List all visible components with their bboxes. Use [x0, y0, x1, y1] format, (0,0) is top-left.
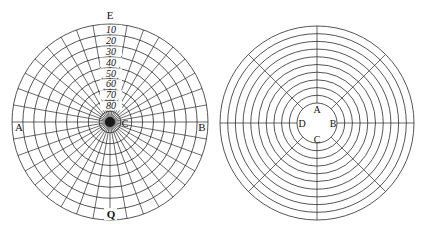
right-label-left: D	[298, 118, 305, 129]
diagram-stage: 1020304050607080 E A B Q C A B C D	[0, 0, 425, 235]
degree-label: 20	[106, 35, 116, 46]
right-radial-lines	[220, 26, 414, 220]
radial-line	[248, 137, 302, 191]
radial-line	[331, 137, 385, 191]
degree-label: 80	[106, 100, 116, 111]
degree-label: 30	[105, 46, 116, 57]
left-label-left: A	[15, 121, 23, 133]
right-label-top: A	[313, 104, 321, 115]
left-label-center: C	[122, 118, 129, 129]
left-label-bottom: Q	[107, 208, 116, 220]
left-label-top: E	[107, 9, 114, 21]
right-label-bottom: C	[314, 134, 321, 145]
degree-label: 10	[106, 24, 116, 35]
degree-label: 70	[106, 89, 116, 100]
left-label-right: B	[198, 121, 205, 133]
diagram-canvas: 1020304050607080 E A B Q C A B C D	[0, 0, 425, 235]
radial-line	[331, 54, 385, 108]
left-degree-labels: 1020304050607080	[105, 24, 116, 111]
degree-label: 60	[106, 78, 116, 89]
center-hub	[105, 117, 115, 127]
degree-label: 40	[106, 57, 116, 68]
polar-grid-left: 1020304050607080 E A B Q C	[12, 9, 208, 220]
degree-label: 50	[106, 68, 116, 79]
right-label-right: B	[330, 118, 337, 129]
radial-line	[248, 54, 302, 108]
ring-grid-right: A B C D	[220, 26, 414, 220]
